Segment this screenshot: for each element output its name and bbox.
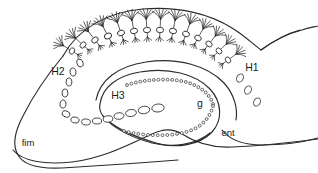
granule-dot bbox=[166, 134, 169, 137]
granule-dot bbox=[189, 82, 192, 85]
granule-dot bbox=[161, 134, 164, 137]
neuron-soma bbox=[143, 27, 151, 33]
granule-dot bbox=[193, 84, 196, 87]
granule-dot bbox=[202, 121, 205, 124]
granule-dot bbox=[184, 80, 187, 83]
granule-dot bbox=[175, 79, 178, 82]
granule-dot bbox=[171, 133, 174, 136]
granule-dot bbox=[147, 133, 150, 136]
granule-dot bbox=[185, 130, 188, 133]
granule-dot bbox=[166, 78, 169, 81]
granule-dot bbox=[208, 114, 211, 117]
label-ent: ent bbox=[221, 127, 235, 138]
granule-dot bbox=[190, 129, 193, 132]
interneuron-soma bbox=[66, 78, 73, 87]
granule-dot bbox=[123, 130, 126, 133]
granule-dot bbox=[171, 78, 174, 81]
diagram-background bbox=[0, 0, 318, 173]
granule-dot bbox=[142, 133, 145, 136]
granule-dot bbox=[180, 80, 183, 83]
granule-dot bbox=[148, 79, 151, 82]
granule-dot bbox=[198, 124, 201, 127]
granule-dot bbox=[134, 81, 137, 84]
granule-dot bbox=[132, 132, 135, 135]
granule-dot bbox=[156, 134, 159, 137]
label-H3: H3 bbox=[111, 89, 125, 101]
granule-dot bbox=[176, 132, 179, 135]
granule-dot bbox=[127, 131, 130, 134]
granule-dot bbox=[162, 78, 165, 81]
granule-dot bbox=[197, 86, 200, 89]
granule-dot bbox=[201, 88, 204, 91]
granule-dot bbox=[157, 78, 160, 81]
interneuron-soma bbox=[62, 89, 68, 97]
granule-dot bbox=[207, 95, 210, 98]
granule-dot bbox=[180, 132, 183, 135]
granule-dot bbox=[126, 84, 129, 87]
granule-dot bbox=[151, 134, 154, 137]
interneuron-soma bbox=[103, 115, 113, 122]
figure-root: H1H2H3gentfim bbox=[0, 0, 318, 173]
label-H2: H2 bbox=[51, 65, 65, 77]
label-fim: fim bbox=[22, 137, 35, 148]
granule-dot bbox=[212, 105, 215, 108]
hippocampus-diagram: H1H2H3gentfim bbox=[0, 0, 318, 173]
label-g: g bbox=[197, 97, 203, 109]
label-H1: H1 bbox=[245, 61, 259, 73]
granule-dot bbox=[210, 109, 213, 112]
granule-dot bbox=[139, 80, 142, 83]
granule-dot bbox=[137, 132, 140, 135]
granule-dot bbox=[210, 98, 213, 101]
neuron-soma bbox=[156, 27, 163, 33]
granule-dot bbox=[204, 91, 207, 94]
interneuron-soma bbox=[92, 118, 101, 124]
granule-dot bbox=[130, 82, 133, 85]
granule-dot bbox=[152, 79, 155, 82]
interneuron-soma bbox=[81, 119, 90, 126]
granule-dot bbox=[205, 118, 208, 121]
granule-dot bbox=[194, 127, 197, 130]
granule-dot bbox=[143, 79, 146, 82]
